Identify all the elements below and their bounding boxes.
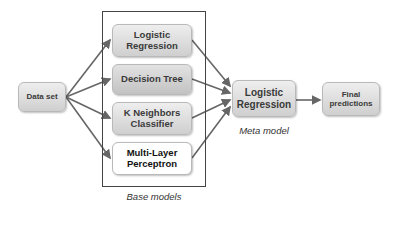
base-model-line1: Logistic — [134, 30, 170, 41]
final-line1: Final — [342, 90, 361, 99]
meta-model-line2: Regression — [237, 99, 291, 111]
base-model-line2: Regression — [126, 41, 178, 52]
base-model-mlp: Multi-Layer Perceptron — [112, 142, 192, 175]
base-model-k-neighbors: K Neighbors Classifier — [112, 102, 192, 135]
base-model-line1: Multi-Layer — [127, 148, 178, 159]
base-models-caption: Base models — [102, 191, 206, 202]
base-model-line2: Classifier — [131, 119, 174, 130]
final-predictions-node: Final predictions — [322, 82, 380, 116]
data-set-node: Data set — [18, 82, 66, 112]
meta-model-node: Logistic Regression — [232, 80, 296, 117]
base-model-line1: K Neighbors — [124, 108, 180, 119]
final-line2: predictions — [329, 99, 372, 108]
base-model-logistic-regression: Logistic Regression — [112, 24, 192, 57]
base-model-line2: Perceptron — [127, 159, 177, 170]
meta-model-line1: Logistic — [245, 87, 283, 99]
meta-model-caption: Meta model — [232, 125, 296, 136]
base-model-line1: Decision Tree — [121, 74, 183, 85]
base-model-decision-tree: Decision Tree — [112, 64, 192, 95]
data-set-label: Data set — [26, 92, 57, 101]
